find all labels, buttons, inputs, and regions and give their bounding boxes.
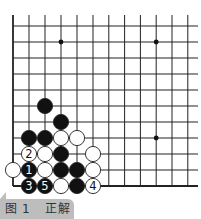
black-stone: 3	[21, 178, 36, 193]
white-stone	[37, 146, 52, 161]
white-stone	[53, 130, 68, 145]
star-point	[59, 40, 64, 45]
black-stone	[53, 146, 68, 161]
white-stone	[85, 146, 100, 161]
move-number: 5	[41, 179, 48, 193]
white-stone: 2	[21, 146, 36, 161]
move-number: 3	[25, 179, 32, 193]
white-stone	[85, 162, 100, 177]
caption-tab	[0, 192, 6, 199]
move-number: 4	[89, 179, 96, 193]
white-stone	[37, 162, 52, 177]
black-stone: 5	[37, 178, 52, 193]
caption-number: 1	[22, 202, 31, 216]
black-stone	[69, 162, 84, 177]
white-stone	[5, 162, 20, 177]
white-stone: 4	[85, 178, 100, 193]
black-stone	[69, 178, 84, 193]
black-stone: 1	[21, 162, 36, 177]
star-point	[154, 40, 159, 45]
black-stone	[21, 130, 36, 145]
black-stone	[53, 162, 68, 177]
caption-figure: 图	[5, 202, 18, 216]
move-number: 2	[25, 147, 32, 161]
white-stone	[53, 178, 68, 193]
black-stone	[53, 114, 68, 129]
go-board: 21354	[0, 0, 201, 200]
black-stone	[37, 130, 52, 145]
move-number: 1	[25, 163, 32, 177]
caption-title: 正解	[45, 202, 71, 216]
star-point	[154, 136, 159, 141]
black-stone	[37, 98, 52, 113]
figure-caption: 图1正解	[0, 199, 74, 219]
white-stone	[69, 130, 84, 145]
